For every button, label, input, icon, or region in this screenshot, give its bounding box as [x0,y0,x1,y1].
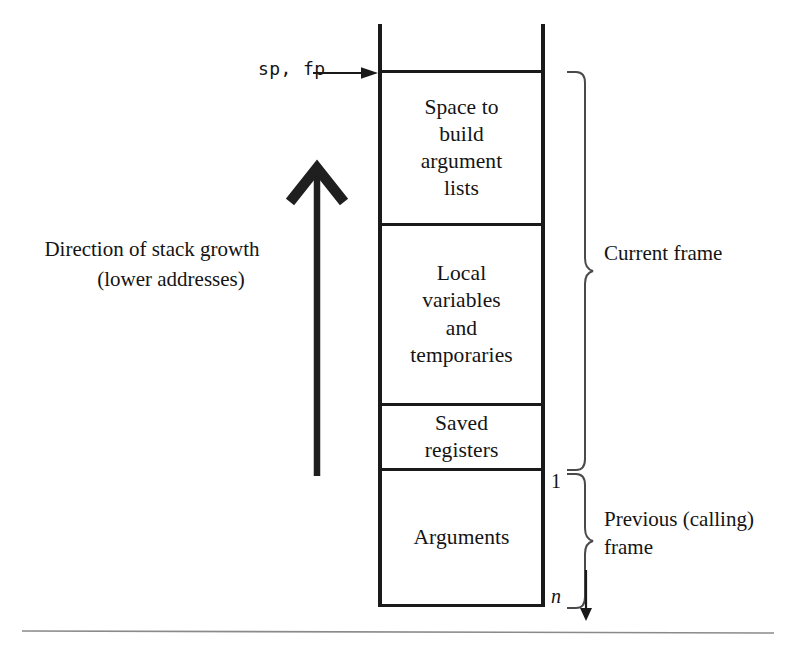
cell-line: and [410,315,513,342]
cell-argument-build-space: Space to build argument lists [382,73,541,223]
cell-line: argument [421,148,503,175]
stack-right-rail [541,24,545,607]
bottom-divider-rule [22,630,774,634]
caption-line-1: Direction of stack growth [18,235,286,265]
caption-line-2: (lower addresses) [18,265,286,295]
cell-line: Space to [421,94,503,121]
stack-box: Space to build argument lists Local vari… [378,24,545,607]
cell-line: Local [410,260,513,287]
current-frame-label-text: Current frame [604,241,722,265]
stack-frame-diagram: sp, fp Space to build argument lists Loc… [0,0,790,652]
previous-frame-label-line-2: frame [604,533,754,561]
cell-line: lists [421,175,503,202]
cell-line: variables [410,287,513,314]
previous-frame-label: Previous (calling) frame [604,505,754,562]
argument-marker-first: 1 [551,470,561,493]
stack-growth-arrow-icon [286,158,350,476]
cell-locals-temporaries: Local variables and temporaries [382,226,541,403]
cell-line: Saved [425,410,499,437]
divider-bottom-of-stack [378,604,545,607]
cell-line: registers [425,437,499,464]
cell-line: Arguments [413,524,509,551]
argument-order-down-arrow-icon [574,570,598,622]
current-frame-label: Current frame [604,239,722,267]
previous-frame-label-line-1: Previous (calling) [604,505,754,533]
cell-arguments: Arguments [382,471,541,604]
stack-growth-caption: Direction of stack growth (lower address… [18,235,286,295]
sp-fp-arrow-icon [313,65,379,81]
current-frame-brace [562,68,596,474]
cell-line: temporaries [410,342,513,369]
cell-saved-registers: Saved registers [382,406,541,468]
cell-line: build [421,121,503,148]
argument-marker-last: n [551,585,561,608]
